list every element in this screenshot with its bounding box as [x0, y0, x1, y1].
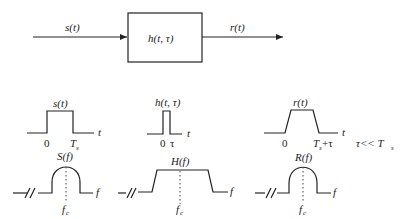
input-rect-pulse	[27, 111, 94, 133]
output-signal-panel: r(t) t 0 T s +τ τ<< T s R(f) f f c	[255, 96, 394, 217]
output-signal-label: r(t)	[230, 21, 245, 34]
condition-sub: s	[391, 144, 394, 152]
output-freq-axis-label: f	[333, 186, 338, 198]
block-diagram: s(t) h(t, τ) r(t)	[33, 13, 283, 62]
channel-freq-axis-label: f	[230, 185, 235, 197]
output-tick-zero: 0	[282, 137, 288, 149]
channel-impulse-pulse	[147, 111, 182, 134]
channel-tick-tau: τ	[170, 137, 175, 149]
output-spectrum-curve	[277, 167, 331, 193]
output-trapezoid-pulse	[264, 110, 338, 133]
channel-time-label: h(t, τ)	[155, 96, 181, 109]
input-freq-axis-label: f	[96, 186, 101, 198]
output-tick-plus-tau: +τ	[322, 137, 333, 149]
condition-label: τ<< T	[356, 137, 385, 149]
channel-panel: h(t, τ) t 0 τ H(f) f f c	[118, 96, 235, 217]
output-time-label: r(t)	[293, 96, 308, 109]
input-signal-panel: s(t) t 0 T s S(f) f f c	[13, 97, 102, 217]
input-freq-label: S(f)	[57, 150, 73, 163]
output-fc-sub: c	[303, 209, 307, 217]
input-tick-ts-sub: s	[76, 144, 79, 152]
channel-spectrum-curve	[138, 170, 228, 192]
output-freq-label: R(f)	[294, 151, 312, 164]
input-time-axis-label: t	[98, 126, 102, 138]
diagram-canvas: s(t) h(t, τ) r(t) s(t) t 0 T s S(f) f f …	[0, 0, 405, 219]
channel-freq-label: H(f)	[170, 155, 190, 168]
input-fc-sub: c	[66, 209, 70, 217]
system-label: h(t, τ)	[148, 32, 174, 45]
output-time-axis-label: t	[342, 126, 346, 138]
channel-time-axis-label: t	[187, 127, 191, 139]
input-time-label: s(t)	[53, 97, 68, 110]
channel-tick-zero: 0	[160, 137, 166, 149]
channel-axis-break-icon	[127, 188, 136, 198]
output-axis-break-icon	[266, 188, 276, 198]
input-tick-zero: 0	[44, 137, 50, 149]
input-signal-label: s(t)	[65, 21, 80, 34]
channel-fc-sub: c	[180, 209, 184, 217]
